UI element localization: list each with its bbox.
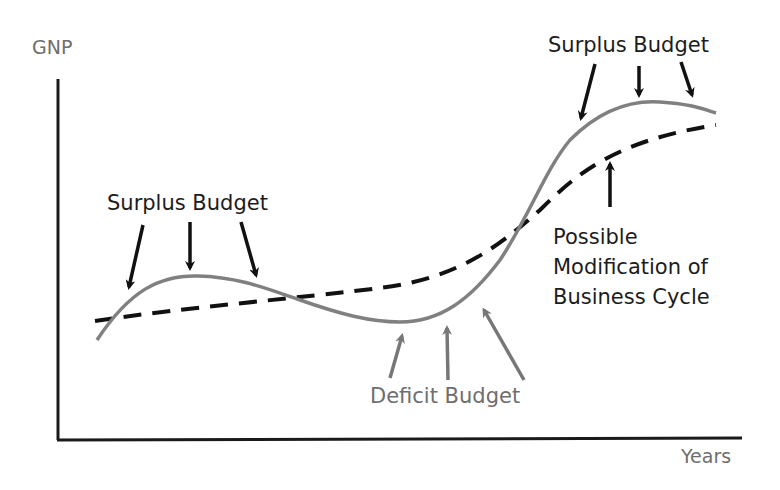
modification-label-line2: Modification of — [553, 252, 710, 282]
modification-label-line1: Possible — [553, 222, 710, 252]
modification-label: Possible Modification of Business Cycle — [553, 222, 710, 312]
x-axis — [57, 438, 742, 440]
x-axis-label: Years — [681, 445, 731, 469]
deficit-budget-label: Deficit Budget — [370, 383, 520, 409]
business-cycle-diagram: GNP Years Surplus Budget Deficit Budget … — [0, 0, 780, 490]
surplus-budget-right-label: Surplus Budget — [548, 32, 709, 58]
surplus-budget-left-label: Surplus Budget — [107, 190, 268, 216]
y-axis-label: GNP — [32, 36, 72, 60]
modification-label-line3: Business Cycle — [553, 282, 710, 312]
surplus-right-arrows — [581, 62, 692, 118]
